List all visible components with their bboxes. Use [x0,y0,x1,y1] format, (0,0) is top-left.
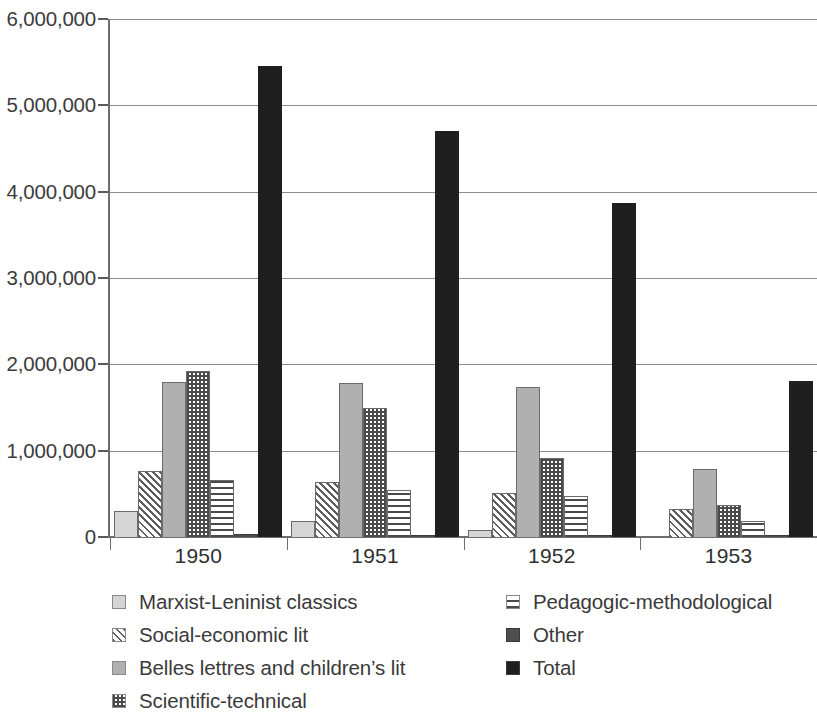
y-tick-mark [98,191,108,193]
bar[interactable] [138,471,162,537]
bar-groups [110,19,817,537]
y-tick-mark [98,104,108,106]
bar[interactable] [741,521,765,537]
y-tick-label: 6,000,000 [7,7,96,31]
legend-swatch-icon [506,595,520,609]
y-tick-label: 1,000,000 [7,439,96,463]
legend-swatch-icon [112,661,126,675]
bar-group-1951 [287,19,464,537]
bar[interactable] [765,535,789,537]
bar[interactable] [789,381,813,537]
bar[interactable] [612,203,636,537]
legend-item[interactable]: Pedagogic-methodological [506,586,772,618]
bar-group-1952 [464,19,641,537]
x-tick-label: 1950 [110,544,287,568]
bar[interactable] [363,408,387,537]
plot-area: 01,000,0002,000,0003,000,0004,000,0005,0… [0,0,817,560]
bar[interactable] [186,371,210,537]
bar[interactable] [435,131,459,537]
bar[interactable] [588,535,612,537]
legend-label: Scientific-technical [139,689,307,713]
bar-group-1950 [110,19,287,537]
y-tick-label: 4,000,000 [7,180,96,204]
y-tick-mark [98,536,108,538]
bar[interactable] [411,535,435,537]
bar[interactable] [717,505,741,537]
y-tick-mark [98,450,108,452]
bar[interactable] [468,530,492,537]
legend-label: Social-economic lit [139,623,308,647]
bar[interactable] [234,534,258,537]
y-tick-label: 0 [85,525,96,549]
x-tick-label: 1952 [464,544,641,568]
legend-item[interactable]: Total [506,652,772,684]
bar[interactable] [162,382,186,537]
legend-label: Other [533,623,584,647]
y-tick-mark [98,363,108,365]
bar[interactable] [210,480,234,537]
y-tick-mark [98,277,108,279]
bar[interactable] [564,496,588,537]
legend-column-right: Pedagogic-methodologicalOtherTotal [506,586,772,685]
legend-column-left: Marxist-Leninist classicsSocial-economic… [112,586,405,718]
legend: Marxist-Leninist classicsSocial-economic… [0,586,817,718]
bar-chart: 01,000,0002,000,0003,000,0004,000,0005,0… [0,0,817,718]
legend-label: Marxist-Leninist classics [139,590,358,614]
legend-item[interactable]: Belles lettres and children’s lit [112,652,405,684]
legend-label: Pedagogic-methodological [533,590,772,614]
bar[interactable] [516,387,540,537]
bars-container [110,19,817,537]
legend-label: Total [533,656,576,680]
bar[interactable] [114,511,138,537]
x-tick-label: 1953 [640,544,817,568]
x-tick-label: 1951 [287,544,464,568]
legend-swatch-icon [112,595,126,609]
y-tick-label: 5,000,000 [7,93,96,117]
legend-swatch-icon [112,694,126,708]
y-tick-label: 3,000,000 [7,266,96,290]
y-axis: 01,000,0002,000,0003,000,0004,000,0005,0… [0,0,108,560]
y-tick-mark [98,18,108,20]
legend-item[interactable]: Scientific-technical [112,685,405,717]
legend-swatch-icon [506,661,520,675]
bar[interactable] [387,490,411,537]
bar[interactable] [693,469,717,537]
bar[interactable] [291,521,315,537]
bar[interactable] [540,458,564,537]
y-tick-label: 2,000,000 [7,352,96,376]
bar-group-1953 [640,19,817,537]
legend-swatch-icon [112,628,126,642]
legend-label: Belles lettres and children’s lit [139,656,405,680]
bar[interactable] [669,509,693,537]
legend-item[interactable]: Marxist-Leninist classics [112,586,405,618]
bar[interactable] [339,383,363,537]
legend-swatch-icon [506,628,520,642]
legend-item[interactable]: Social-economic lit [112,619,405,651]
bar[interactable] [315,482,339,537]
legend-item[interactable]: Other [506,619,772,651]
x-axis-labels: 1950195119521953 [110,544,817,568]
bar[interactable] [258,66,282,537]
bar[interactable] [492,493,516,537]
